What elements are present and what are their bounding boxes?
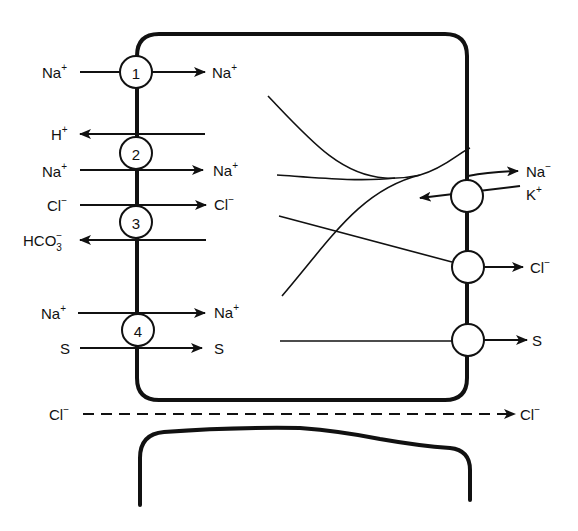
t4-s-left-label: S xyxy=(60,340,70,357)
transporter-3-number: 3 xyxy=(132,215,140,232)
t3-cl-left-label: Cl− xyxy=(47,195,67,214)
t2-h-label: H+ xyxy=(51,124,68,143)
t1-na-right-label: Na+ xyxy=(212,62,237,81)
bl-cl-label: Cl− xyxy=(530,257,550,276)
para-cl-right-label: Cl− xyxy=(520,404,540,423)
transporter-4-number: 4 xyxy=(134,323,142,340)
t4-na-right-label: Na+ xyxy=(214,302,239,321)
pump-na-out-arrow xyxy=(468,171,518,176)
basolateral-na-k-pump xyxy=(451,180,483,212)
basolateral-s-carrier xyxy=(452,324,484,356)
t4-s-right-label: S xyxy=(214,340,224,357)
pump-k-label: K+ xyxy=(526,184,542,203)
t2-na-right-label: Na+ xyxy=(213,160,238,179)
basolateral-cl-channel xyxy=(452,251,484,283)
t3-hco3-label: HCO−3 xyxy=(23,230,62,253)
ion-transport-diagram: Cl− Cl− 1 Na+ Na+ 2 H+ Na+ Na+ 3 Cl− Cl−… xyxy=(0,0,578,531)
t2-na-left-label: Na+ xyxy=(42,161,67,180)
t4-na-left-label: Na+ xyxy=(41,303,66,322)
transporter-2-number: 2 xyxy=(132,146,140,163)
intracellular-path-cl xyxy=(279,216,452,262)
t3-cl-right-label: Cl− xyxy=(214,194,234,213)
cell-membrane-lower xyxy=(140,428,470,505)
bl-s-label: S xyxy=(532,332,542,349)
intracellular-path-c xyxy=(282,148,470,296)
intracellular-path-a xyxy=(268,96,420,178)
transporter-1-number: 1 xyxy=(132,65,140,82)
para-cl-left-label: Cl− xyxy=(49,404,69,423)
cell-membrane-upper xyxy=(137,34,467,400)
t1-na-left-label: Na+ xyxy=(42,62,67,81)
pump-na-label: Na− xyxy=(526,161,551,180)
